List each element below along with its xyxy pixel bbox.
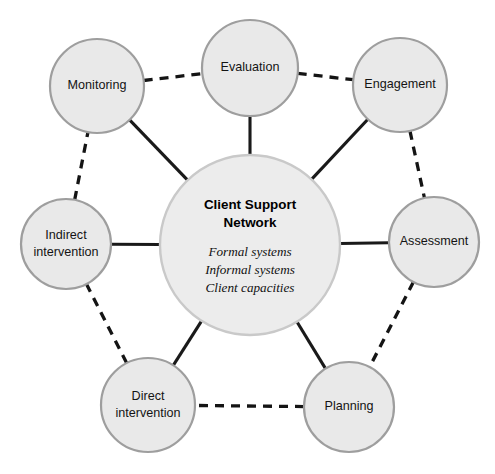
edge-engagement-assessment [410,131,425,198]
node-label-indirect-intervention-line2: intervention [33,245,98,259]
edge-evaluation-engagement [298,73,354,79]
node-layer: MonitoringEvaluationEngagementAssessment… [21,20,479,452]
center-title-line1: Client Support [204,197,297,212]
node-engagement[interactable]: Engagement [353,38,447,132]
edge-planning-direct [195,405,304,406]
center-title-line2: Network [224,215,277,230]
node-circle-direct-intervention[interactable] [101,358,195,452]
diagram-canvas: MonitoringEvaluationEngagementAssessment… [0,0,495,474]
edge-planning-center [297,322,326,369]
node-planning[interactable]: Planning [304,362,394,452]
node-evaluation[interactable]: Evaluation [202,20,298,116]
node-label-direct-intervention-line1: Direct [132,389,165,403]
node-label-direct-intervention-line2: intervention [115,406,180,420]
center-subitem-0: Formal systems [207,244,291,259]
edge-assessment-center [340,243,389,244]
node-label-monitoring: Monitoring [68,78,127,92]
node-monitoring[interactable]: Monitoring [50,39,144,133]
client-support-network-diagram: MonitoringEvaluationEngagementAssessment… [0,0,495,474]
center-subitem-1: Informal systems [204,262,295,277]
node-label-evaluation: Evaluation [221,60,280,74]
node-label-planning: Planning [324,399,373,413]
edge-direct-center [173,321,201,365]
edge-direct-indirect [86,284,126,363]
node-label-indirect-intervention-line1: Indirect [45,228,87,242]
edge-indirect-monitoring [75,132,88,200]
edge-monitoring-evaluation [144,74,203,81]
node-label-assessment: Assessment [400,234,469,248]
node-assessment[interactable]: Assessment [389,197,479,287]
node-client-support-network[interactable]: Client SupportNetworkFormal systemsInfor… [160,155,340,335]
edge-engagement-center [312,119,368,179]
edge-assessment-planning [370,282,414,367]
node-circle-indirect-intervention[interactable] [21,199,111,289]
node-indirect-intervention[interactable]: Indirectintervention [21,199,111,289]
node-label-engagement: Engagement [364,77,436,91]
center-subitem-2: Client capacities [206,280,295,295]
node-direct-intervention[interactable]: Directintervention [101,358,195,452]
edge-monitoring-center [130,120,188,180]
